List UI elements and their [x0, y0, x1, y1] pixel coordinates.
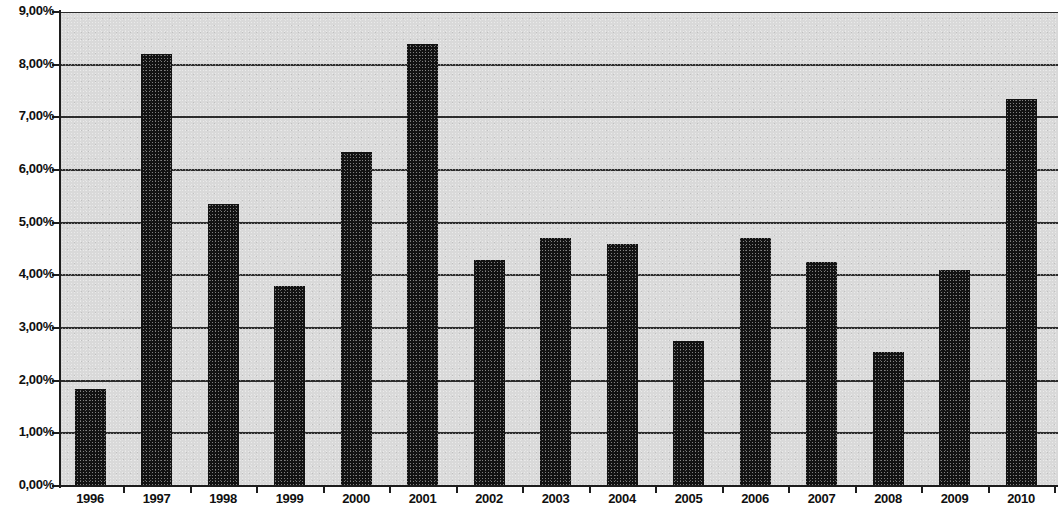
- bar: [141, 54, 172, 486]
- bar: [75, 389, 106, 486]
- x-axis-label: 2004: [589, 491, 655, 506]
- bar: [274, 286, 305, 486]
- bar: [673, 341, 704, 486]
- gridline: [61, 64, 1058, 66]
- y-axis-line: [59, 10, 61, 488]
- y-axis-label: 5,00%: [0, 214, 54, 229]
- bar: [474, 260, 505, 486]
- x-axis-label: 2010: [988, 491, 1054, 506]
- bar: [806, 262, 837, 486]
- bar-chart: 0,00%1,00%2,00%3,00%4,00%5,00%6,00%7,00%…: [0, 0, 1058, 510]
- x-axis-line: [59, 485, 1058, 487]
- y-axis-label: 9,00%: [0, 3, 54, 18]
- x-axis-label: 1996: [57, 491, 123, 506]
- x-axis-label: 2003: [523, 491, 589, 506]
- x-axis-label: 2009: [922, 491, 988, 506]
- x-axis-label: 2008: [855, 491, 921, 506]
- y-axis-label: 6,00%: [0, 161, 54, 176]
- bar: [540, 238, 571, 486]
- bar: [740, 238, 771, 486]
- y-axis-label: 1,00%: [0, 424, 54, 439]
- bar: [341, 152, 372, 486]
- x-axis-label: 2001: [390, 491, 456, 506]
- bar: [1006, 99, 1037, 486]
- y-axis-label: 0,00%: [0, 477, 54, 492]
- x-axis-label: 2005: [656, 491, 722, 506]
- bar: [208, 204, 239, 486]
- gridline: [61, 169, 1058, 171]
- x-axis-label: 1999: [257, 491, 323, 506]
- x-axis-label: 2002: [456, 491, 522, 506]
- x-axis-label: 1997: [124, 491, 190, 506]
- gridline: [61, 12, 1058, 13]
- x-axis-label: 2000: [323, 491, 389, 506]
- gridline: [61, 116, 1058, 118]
- bar: [873, 352, 904, 486]
- y-axis-label: 3,00%: [0, 319, 54, 334]
- x-axis-label: 2007: [789, 491, 855, 506]
- x-axis-label: 2006: [722, 491, 788, 506]
- x-axis-tick: [1054, 485, 1056, 493]
- y-axis-label: 4,00%: [0, 266, 54, 281]
- bar: [407, 44, 438, 486]
- plot-area: [61, 12, 1058, 486]
- x-axis-label: 1998: [190, 491, 256, 506]
- y-axis-label: 8,00%: [0, 56, 54, 71]
- bar: [607, 244, 638, 486]
- y-axis-label: 7,00%: [0, 108, 54, 123]
- bar: [939, 270, 970, 486]
- y-axis-label: 2,00%: [0, 372, 54, 387]
